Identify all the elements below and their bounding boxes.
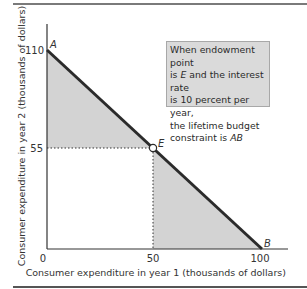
annotation-line-3: is 10 percent per year, — [170, 94, 266, 119]
y-axis-title: Consumer expenditure in year 2 (thousand… — [16, 6, 27, 266]
annotation-box: When endowment point is E and the intere… — [166, 41, 270, 107]
x-tick-0: 0 — [40, 253, 46, 264]
annotation-line-2: is E and the interest rate — [170, 69, 266, 94]
x-tick-50: 50 — [147, 253, 160, 264]
point-label-b: B — [264, 238, 271, 249]
point-label-e: E — [158, 138, 165, 149]
annotation-line-4: the lifetime budget — [170, 120, 266, 133]
annotation-line-5: constraint is AB — [170, 132, 266, 145]
y-tick-110: 110 — [25, 45, 44, 56]
x-axis-title: Consumer expenditure in year 1 (thousand… — [26, 267, 286, 278]
x-tick-100: 100 — [250, 253, 269, 264]
endowment-point-e — [149, 144, 156, 151]
y-tick-55: 55 — [30, 143, 43, 154]
annotation-line-1: When endowment point — [170, 44, 266, 69]
bottom-rule — [13, 286, 307, 288]
point-label-a: A — [49, 39, 57, 50]
